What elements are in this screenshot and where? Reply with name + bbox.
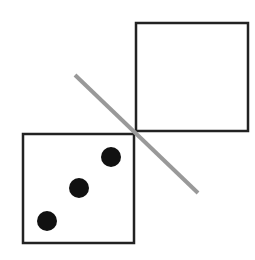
dice-reflection-diagram <box>0 0 255 260</box>
blank-die-face <box>136 23 248 131</box>
pip <box>69 178 89 198</box>
pip <box>37 211 57 231</box>
die-pips <box>37 147 121 231</box>
pip <box>101 147 121 167</box>
